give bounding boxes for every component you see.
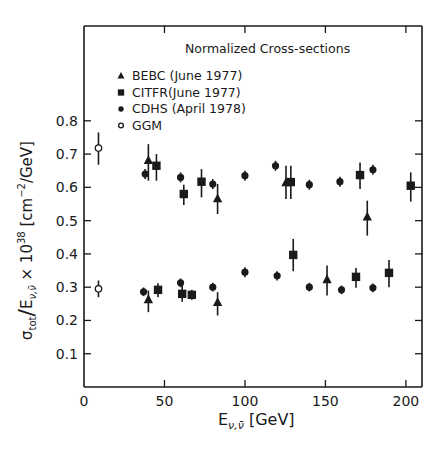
cross-section-chart: 0501001502000.10.20.30.40.50.60.70.8 Nor… — [0, 0, 443, 455]
x-tick-label: 150 — [312, 393, 339, 409]
series-ggm — [95, 132, 101, 297]
circle-marker — [241, 172, 248, 179]
data-points — [95, 132, 415, 315]
circle-marker — [177, 174, 184, 181]
triangle-marker — [322, 274, 331, 283]
square-marker — [197, 178, 205, 186]
square-marker — [178, 290, 186, 298]
circle-marker — [274, 272, 281, 279]
x-tick-label: 200 — [393, 393, 420, 409]
y-label-tot: tot — [27, 316, 38, 330]
circle-marker — [306, 181, 313, 188]
y-label-nu-sub: ν,ν̄ — [27, 285, 38, 300]
y-tick-label: 0.4 — [56, 246, 78, 262]
y-label-unit-open: [cm — [18, 198, 36, 231]
legend-item: CDHS (April 1978) — [118, 101, 245, 116]
legend: Normalized Cross-sections BEBC (June 197… — [117, 41, 350, 133]
y-tick-label: 0.5 — [56, 213, 78, 229]
open-circle-marker — [95, 145, 101, 151]
square-marker — [289, 251, 297, 259]
legend-item-label: CITFR(June 1977) — [132, 85, 241, 100]
legend-item: GGM — [119, 118, 163, 133]
circle-marker — [142, 170, 149, 177]
y-label-unit-close: /GeV] — [18, 141, 36, 183]
open-circle-marker — [119, 123, 124, 128]
x-label-unit: [GeV] — [249, 410, 295, 429]
y-tick-label: 0.8 — [56, 113, 78, 129]
square-marker — [385, 269, 393, 277]
circle-marker — [209, 180, 216, 187]
square-marker — [152, 162, 160, 170]
triangle-marker — [363, 212, 372, 221]
circle-marker — [369, 284, 376, 291]
legend-item-label: GGM — [132, 118, 162, 133]
triangle-marker — [213, 297, 222, 306]
series-cdhs — [140, 161, 377, 296]
series-citfr — [152, 154, 415, 302]
circle-marker — [118, 106, 123, 111]
triangle-marker — [144, 294, 153, 303]
circle-marker — [272, 162, 279, 169]
legend-item-label: CDHS (April 1978) — [132, 101, 246, 116]
x-tick-label: 0 — [80, 393, 89, 409]
square-marker — [352, 273, 360, 281]
y-label-unit-exp: −2 — [16, 183, 27, 198]
legend-item: BEBC (June 1977) — [117, 68, 242, 83]
y-label-exp: 38 — [16, 231, 27, 244]
x-axis-label: Eν,ν̄[GeV] — [218, 410, 295, 432]
legend-item-label: BEBC (June 1977) — [132, 68, 242, 83]
circle-marker — [209, 284, 216, 291]
open-circle-marker — [95, 286, 101, 292]
triangle-marker — [144, 155, 153, 164]
y-label-times: × 10 — [18, 244, 36, 285]
y-tick-label: 0.2 — [56, 312, 78, 328]
square-marker — [356, 171, 364, 179]
legend-items: BEBC (June 1977)CITFR(June 1977)CDHS (Ap… — [117, 68, 245, 133]
circle-marker — [336, 178, 343, 185]
legend-item: CITFR(June 1977) — [118, 85, 241, 100]
square-marker — [188, 291, 196, 299]
y-tick-label: 0.6 — [56, 179, 78, 195]
circle-marker — [177, 279, 184, 286]
x-label-sub: ν,ν̄ — [228, 419, 244, 432]
triangle-marker — [213, 194, 222, 203]
square-marker — [180, 190, 188, 198]
series-bebc — [144, 144, 372, 315]
square-marker — [407, 182, 415, 190]
y-tick-label: 0.1 — [56, 346, 78, 362]
square-marker — [287, 178, 295, 186]
circle-marker — [241, 269, 248, 276]
circle-marker — [140, 288, 147, 295]
triangle-marker — [117, 72, 124, 79]
y-tick-label: 0.7 — [56, 146, 78, 162]
y-label-sigma: σ — [18, 330, 36, 340]
legend-title: Normalized Cross-sections — [185, 41, 350, 56]
y-axis-label: σtot/Eν,ν̄ × 1038 [cm−2/GeV] — [14, 141, 39, 340]
circle-marker — [338, 286, 345, 293]
circle-marker — [369, 166, 376, 173]
axis-tick-labels: 0501001502000.10.20.30.40.50.60.70.8 — [56, 113, 420, 409]
x-tick-label: 50 — [156, 393, 174, 409]
x-label-main: E — [218, 410, 228, 429]
y-label-e: E — [18, 300, 36, 309]
square-marker — [118, 89, 124, 95]
circle-marker — [306, 284, 313, 291]
y-tick-label: 0.3 — [56, 279, 78, 295]
square-marker — [154, 286, 162, 294]
x-tick-label: 100 — [232, 393, 259, 409]
